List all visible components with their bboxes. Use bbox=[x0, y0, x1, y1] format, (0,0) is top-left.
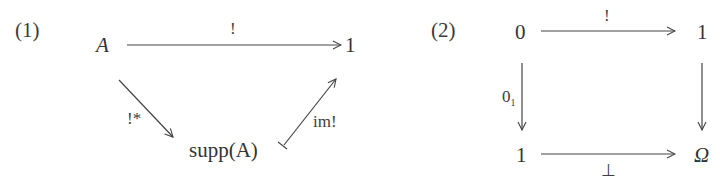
object-one-bottom-left: 1 bbox=[516, 145, 527, 166]
zero-label-subscript: 1 bbox=[511, 97, 516, 108]
object-supp-a: supp(A) bbox=[189, 140, 258, 161]
arrow-label-im-bang: im! bbox=[313, 113, 337, 130]
zero-label-text: 0 bbox=[502, 87, 511, 106]
arrow-label-bottom: ⊥ bbox=[601, 162, 616, 179]
object-zero: 0 bbox=[515, 22, 526, 43]
object-one-top-right: 1 bbox=[697, 22, 708, 43]
diagram-2-number: (2) bbox=[431, 20, 456, 41]
arrow-label-bang-2: ! bbox=[604, 7, 610, 24]
supp-a-text: supp(A) bbox=[189, 138, 258, 162]
arrow-label-zero-sub-1: 01 bbox=[502, 88, 516, 108]
object-a: A bbox=[96, 35, 109, 56]
arrow-label-bang-star: !* bbox=[127, 110, 141, 127]
arrow-layer bbox=[0, 0, 720, 182]
diagram-1-number: (1) bbox=[15, 20, 40, 41]
object-omega: Ω bbox=[694, 145, 709, 166]
object-terminal-1: 1 bbox=[345, 35, 356, 56]
arrow-label-bang: ! bbox=[230, 20, 236, 37]
